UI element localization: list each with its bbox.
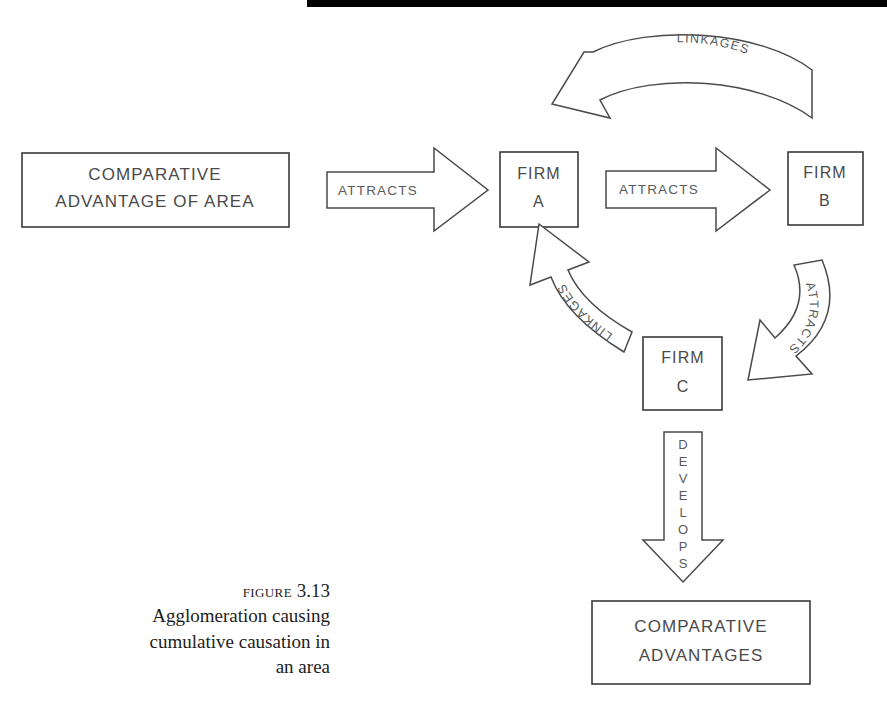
node-label-line1: COMPARATIVE — [88, 165, 221, 184]
figure-page: COMPARATIVE ADVANTAGE OF AREA ATTRACTS F… — [0, 0, 887, 723]
node-comparative-advantage-of-area[interactable]: COMPARATIVE ADVANTAGE OF AREA — [22, 153, 289, 227]
arrow-develops-firm-c-to-advantages[interactable]: D E V E L O P S — [643, 432, 723, 582]
node-label-line1: FIRM — [661, 349, 705, 366]
node-firm-a[interactable]: FIRM A — [500, 152, 578, 227]
arrow-linkages-firm-c-to-firm-a[interactable]: LINKAGES — [530, 224, 632, 352]
figure-caption: Figure 3.13 Agglomeration causing cumula… — [20, 578, 330, 679]
arrow-label-attracts-2: ATTRACTS — [619, 182, 699, 197]
node-firm-b[interactable]: FIRM B — [788, 152, 863, 225]
figure-number: 3.13 — [297, 580, 330, 601]
node-label-line2: ADVANTAGE OF AREA — [55, 192, 254, 211]
node-label-line2: ADVANTAGES — [639, 646, 764, 665]
node-label-line2: C — [677, 378, 690, 395]
develops-letter-5: O — [678, 522, 688, 537]
arrow-attracts-firm-a-to-firm-b[interactable]: ATTRACTS — [606, 148, 770, 231]
node-label-line1: COMPARATIVE — [634, 617, 767, 636]
arrow-linkages-firm-b-to-firm-a[interactable]: LINKAGES — [552, 32, 812, 118]
arrow-label-attracts-1: ATTRACTS — [338, 183, 418, 198]
node-firm-c[interactable]: FIRM C — [643, 337, 722, 410]
develops-letter-6: P — [679, 539, 688, 554]
develops-letter-4: L — [679, 505, 686, 520]
node-label-line1: FIRM — [517, 165, 561, 182]
figure-word: Figure — [243, 580, 292, 601]
arrow-attracts-firm-b-to-firm-c[interactable]: ATTRACTS — [748, 260, 830, 380]
caption-line-1: Agglomeration causing — [20, 603, 330, 628]
arrow-attracts-area-to-firm-a[interactable]: ATTRACTS — [327, 148, 488, 231]
node-label-line2: B — [819, 192, 831, 209]
node-comparative-advantages[interactable]: COMPARATIVE ADVANTAGES — [592, 601, 810, 684]
develops-letter-7: S — [679, 556, 688, 571]
arrow-label-linkages-2: LINKAGES — [554, 281, 615, 343]
develops-letter-1: E — [679, 454, 688, 469]
node-label-line2: A — [533, 193, 545, 210]
caption-line-2: cumulative causation in — [20, 629, 330, 654]
figure-number-line: Figure 3.13 — [20, 578, 330, 603]
develops-letter-3: E — [679, 488, 688, 503]
node-label-line1: FIRM — [803, 164, 847, 181]
develops-letter-0: D — [678, 437, 687, 452]
caption-line-3: an area — [20, 654, 330, 679]
develops-letter-2: V — [679, 471, 688, 486]
